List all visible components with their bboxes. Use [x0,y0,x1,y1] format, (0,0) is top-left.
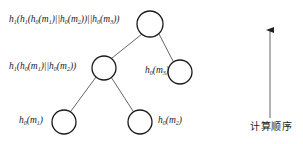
label-text: (m [28,61,38,71]
label-text: )) [70,61,76,71]
label-text: (h [17,14,25,24]
label-text: (m [27,115,37,125]
label-root: h1(h1(h0(m1)||h0(m2))||h0(m3)) [9,15,119,25]
label-mid-left: h1(h0(m1)||h0(m2)) [9,62,76,72]
node-leaf-left [52,110,76,134]
label-text: (m [153,65,163,75]
label-text: (h [17,61,25,71]
label-leaf-left: h0(m1) [19,116,43,126]
edge-root-to-mid-right [159,34,173,61]
edge-mid-left-to-leaf-right [111,77,133,111]
label-text: (m [166,115,176,125]
label-text: )||h [52,14,65,24]
edge-mid-left-to-leaf-left [71,77,96,111]
label-text: )) [113,14,119,24]
label-text: (h [28,14,36,24]
label-text: (m [100,14,110,24]
edge-root-to-mid-left [112,34,142,58]
node-mid-right [168,60,192,84]
label-text: (m [57,61,67,71]
node-leaf-right [128,110,152,134]
label-text: ) [40,115,43,125]
label-text: (m [68,14,78,24]
node-mid-left [92,56,116,80]
label-text: ) [166,65,169,75]
label-text: ))||h [81,14,97,24]
computation-order-label: 计算顺序 [247,122,295,132]
label-text: (m [39,14,49,24]
label-leaf-right: h0(m2) [158,116,182,126]
label-mid-right: h0(m3) [145,66,169,76]
node-root [137,11,163,37]
label-text: ) [179,115,182,125]
label-text: )||h [41,61,54,71]
